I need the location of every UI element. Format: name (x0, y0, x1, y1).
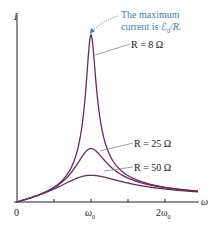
x-axis-label: ω (201, 197, 208, 207)
label-r8: R = 8 Ω (131, 40, 163, 50)
label-r50: R = 50 Ω (134, 163, 171, 173)
y-axis-label: I (14, 12, 17, 22)
resonance-chart (0, 0, 219, 237)
tick-omega0: ω0 (85, 208, 95, 220)
tick-0: 0 (14, 208, 19, 218)
tick-2omega0: 2ω0 (156, 208, 171, 220)
curve-r25 (17, 149, 198, 202)
label-r25: R = 25 Ω (134, 139, 171, 149)
annotation-arrow (92, 16, 118, 31)
annotation-note: The maximum current is ℰ0/R. (121, 9, 181, 34)
curve-r8 (17, 35, 198, 202)
